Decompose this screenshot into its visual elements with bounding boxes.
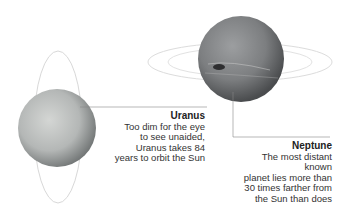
neptune-desc-line-4: the Sun than does Earth	[232, 194, 332, 206]
neptune-label: Neptune The most distant known planet li…	[232, 141, 332, 205]
uranus-title: Uranus	[110, 111, 205, 122]
uranus-label: Uranus Too dim for the eye to see unaide…	[110, 111, 205, 164]
neptune-title: Neptune	[232, 141, 332, 152]
uranus-planet	[18, 89, 96, 167]
uranus-desc-line-4: years to orbit the Sun	[110, 153, 205, 164]
neptune-planet	[198, 16, 284, 102]
neptune-desc-line-3: 30 times farther from	[232, 183, 332, 194]
neptune-desc-line-1: The most distant known	[232, 152, 332, 173]
uranus-desc-line-2: to see unaided,	[110, 132, 205, 143]
great-dark-spot	[213, 64, 225, 70]
